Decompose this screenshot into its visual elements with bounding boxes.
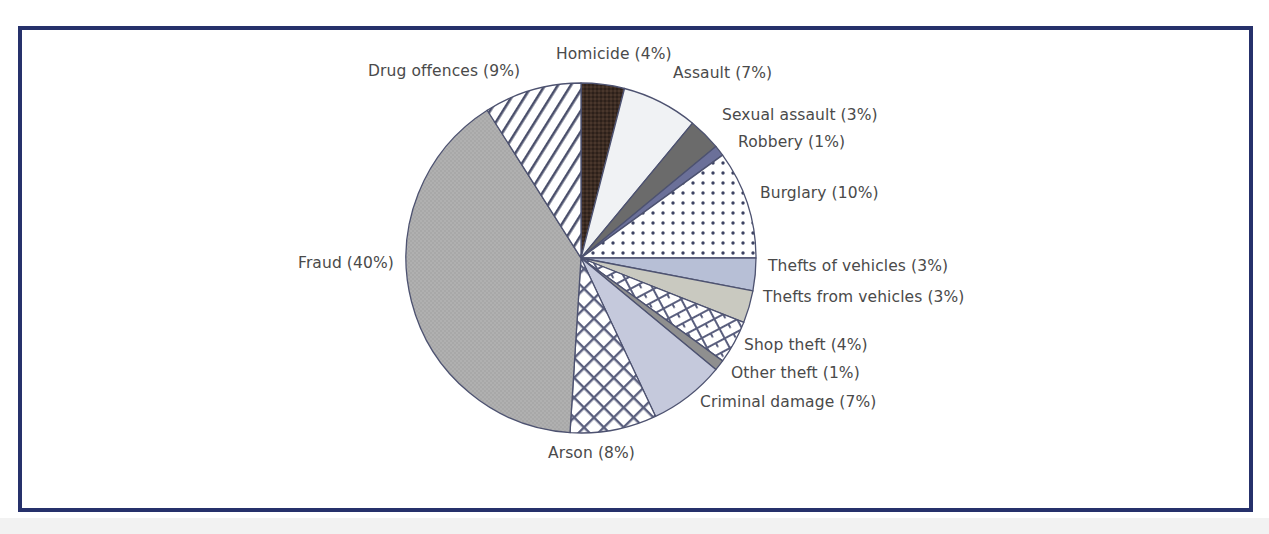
- pie-label-assault: Assault (7%): [673, 64, 772, 82]
- pie-label-burglary: Burglary (10%): [760, 184, 879, 202]
- pie-slice-group: Homicide (4%)Assault (7%)Sexual assault …: [406, 83, 756, 433]
- pie-label-drug-offences: Drug offences (9%): [368, 62, 520, 80]
- pie-label-criminal-damage: Criminal damage (7%): [700, 393, 876, 411]
- page-bottom-strip: [0, 518, 1269, 534]
- pie-label-arson: Arson (8%): [548, 444, 635, 462]
- chart-page: Homicide (4%)Assault (7%)Sexual assault …: [0, 0, 1269, 534]
- pie-chart: Homicide (4%)Assault (7%)Sexual assault …: [0, 0, 1269, 534]
- pie-label-sexual-assault: Sexual assault (3%): [722, 106, 878, 124]
- pie-label-other-theft: Other theft (1%): [731, 364, 860, 382]
- pie-label-fraud: Fraud (40%): [298, 254, 394, 272]
- pie-label-homicide: Homicide (4%): [556, 45, 672, 63]
- pie-label-robbery: Robbery (1%): [738, 133, 845, 151]
- pie-label-thefts-of-vehicles: Thefts of vehicles (3%): [768, 257, 948, 275]
- pie-label-shop-theft: Shop theft (4%): [744, 336, 868, 354]
- pie-label-thefts-from-vehicles: Thefts from vehicles (3%): [763, 288, 964, 306]
